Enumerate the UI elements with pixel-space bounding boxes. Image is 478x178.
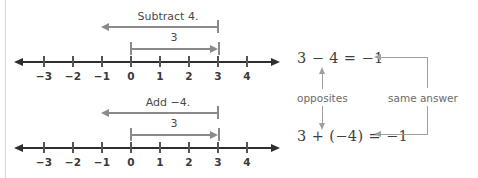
same-answer-connector-lower xyxy=(427,106,428,135)
opposites-connector-lower xyxy=(322,106,323,123)
subtract-jump-line xyxy=(108,26,218,28)
add-tick-label: −2 xyxy=(60,156,86,168)
subtract-tick-label: −3 xyxy=(31,70,57,82)
addition-equation: 3 + (−4) = −1 xyxy=(297,128,408,144)
subtract-start-label: 3 xyxy=(144,31,204,44)
add-start-arrowhead-icon xyxy=(210,131,218,139)
add-start-line xyxy=(130,134,211,136)
subtract-tick-label: 2 xyxy=(176,70,202,82)
subtract-start-cap-end xyxy=(218,42,220,55)
subtract-tick xyxy=(246,56,248,67)
subtraction-equation: 3 − 4 = −1 xyxy=(297,50,384,66)
subtract-tick xyxy=(159,56,161,67)
subtract-tick xyxy=(130,56,132,67)
same-answer-arrowhead-bottom-icon xyxy=(374,131,381,137)
add-tick-label: 1 xyxy=(147,156,173,168)
same-answer-connector-bottom xyxy=(381,134,428,135)
subtract-tick-label: 1 xyxy=(147,70,173,82)
opposites-arrowhead-down-icon xyxy=(319,123,325,130)
subtract-axis-left-arrow-icon xyxy=(14,58,23,66)
add-tick xyxy=(159,142,161,153)
add-tick-label: 2 xyxy=(176,156,202,168)
subtract-axis-right-arrow-icon xyxy=(271,58,280,66)
opposites-connector-upper xyxy=(322,73,323,89)
same-answer-label: same answer xyxy=(388,92,458,104)
add-axis-left-arrow-icon xyxy=(14,144,23,152)
same-answer-connector-top xyxy=(381,57,428,58)
page-rule xyxy=(5,0,6,178)
add-tick xyxy=(72,142,74,153)
add-jump-arrowhead-icon xyxy=(101,109,109,117)
subtract-tick-label: −2 xyxy=(60,70,86,82)
subtract-axis xyxy=(22,61,272,63)
add-tick xyxy=(217,142,219,153)
subtract-tick-label: 4 xyxy=(234,70,260,82)
subtract-tick-label: −1 xyxy=(89,70,115,82)
add-tick xyxy=(246,142,248,153)
subtract-start-line xyxy=(130,48,211,50)
same-answer-arrowhead-top-icon xyxy=(374,54,381,60)
add-tick-label: 4 xyxy=(234,156,260,168)
math-number-line-figure: Subtract 4. 3 −3 −2 −1 0 1 2 3 4 Ad xyxy=(0,0,478,178)
subtract-start-arrowhead-icon xyxy=(210,45,218,53)
subtract-tick xyxy=(43,56,45,67)
subtract-tick xyxy=(217,56,219,67)
subtract-jump-label: Subtract 4. xyxy=(118,10,218,23)
same-answer-connector-upper xyxy=(427,57,428,88)
subtract-tick-label: 0 xyxy=(118,70,144,82)
add-start-cap-end xyxy=(218,128,220,141)
subtract-tick xyxy=(72,56,74,67)
add-axis-right-arrow-icon xyxy=(271,144,280,152)
add-tick-label: 3 xyxy=(205,156,231,168)
add-jump-line xyxy=(108,112,218,114)
add-tick-label: −1 xyxy=(89,156,115,168)
opposites-label: opposites xyxy=(297,92,348,104)
add-tick xyxy=(188,142,190,153)
add-tick-label: −3 xyxy=(31,156,57,168)
add-jump-label: Add −4. xyxy=(118,96,218,109)
subtract-tick xyxy=(101,56,103,67)
subtract-jump-arrowhead-icon xyxy=(101,23,109,31)
subtract-tick-label: 3 xyxy=(205,70,231,82)
add-tick-label: 0 xyxy=(118,156,144,168)
add-tick xyxy=(101,142,103,153)
subtract-tick xyxy=(188,56,190,67)
add-start-label: 3 xyxy=(144,117,204,130)
add-tick xyxy=(43,142,45,153)
add-axis xyxy=(22,147,272,149)
add-tick xyxy=(130,142,132,153)
